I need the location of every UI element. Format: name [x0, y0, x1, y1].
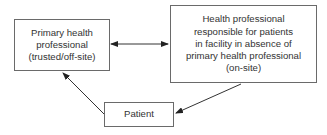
- arrow-patient-primary: [63, 73, 104, 114]
- node-text-line: primary health professional: [186, 50, 301, 62]
- node-text-line: Primary health: [28, 27, 95, 39]
- node-onsite-health-professional: Health professional responsible for pati…: [170, 5, 317, 83]
- node-text-line: Health professional: [186, 13, 301, 25]
- node-text-line: Patient: [124, 108, 154, 120]
- arrow-onsite-patient: [176, 84, 241, 113]
- node-patient: Patient: [104, 102, 174, 127]
- node-text-line: responsible for patients: [186, 26, 301, 38]
- node-text-line: (trusted/off-site): [28, 51, 95, 63]
- node-text-line: professional: [28, 39, 95, 51]
- node-primary-health-professional: Primary health professional (trusted/off…: [14, 19, 110, 71]
- node-text-line: in facility in absence of: [186, 38, 301, 50]
- node-text-line: (on-site): [186, 62, 301, 74]
